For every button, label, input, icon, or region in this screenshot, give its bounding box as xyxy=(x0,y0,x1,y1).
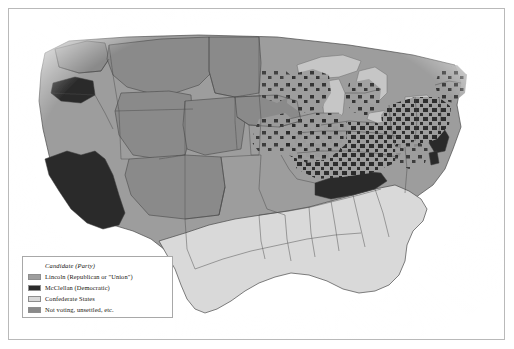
legend-title: Candidate (Party) xyxy=(45,262,172,269)
legend-item-mcclellan: McClellan (Democratic) xyxy=(28,282,172,293)
legend-item-confederate: Confederate States xyxy=(28,293,172,304)
legend-label-mcclellan: McClellan (Democratic) xyxy=(45,284,110,291)
screenshot-root: Candidate (Party) Lincoln (Republican or… xyxy=(0,0,514,349)
legend-label-lincoln: Lincoln (Republican or "Union") xyxy=(45,273,133,280)
legend-label-not-voting: Not voting, unsettled, etc. xyxy=(45,306,114,313)
legend-swatch-not-voting xyxy=(28,307,41,313)
legend-swatch-confederate xyxy=(28,296,41,302)
legend-swatch-mcclellan xyxy=(28,285,41,291)
legend-item-lincoln: Lincoln (Republican or "Union") xyxy=(28,271,172,282)
legend-swatch-lincoln xyxy=(28,274,41,280)
legend-item-not-voting: Not voting, unsettled, etc. xyxy=(28,304,172,315)
legend-label-confederate: Confederate States xyxy=(45,295,95,302)
map-legend: Candidate (Party) Lincoln (Republican or… xyxy=(22,256,173,318)
